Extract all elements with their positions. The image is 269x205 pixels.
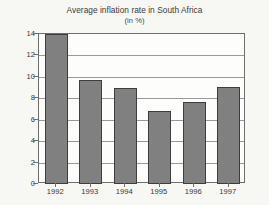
- chart-title: Average inflation rate in South Africa: [0, 5, 269, 15]
- y-tick-label: 10: [9, 71, 35, 80]
- y-tick-label: 8: [9, 93, 35, 102]
- bar-1993: [79, 80, 102, 184]
- chart-subtitle: (in %): [0, 16, 269, 25]
- y-tick-mark: [33, 162, 38, 163]
- gridline: [39, 98, 244, 99]
- y-tick-label: 6: [9, 114, 35, 123]
- y-tick-mark: [33, 140, 38, 141]
- y-tick-mark: [33, 76, 38, 77]
- bar-1992: [45, 34, 68, 184]
- y-tick-mark: [33, 183, 38, 184]
- gridline: [39, 55, 244, 56]
- y-tick-mark: [33, 119, 38, 120]
- gridline: [39, 163, 244, 164]
- plot-area: [38, 33, 245, 183]
- x-tick-label: 1997: [208, 187, 248, 196]
- y-tick-label: 4: [9, 136, 35, 145]
- gridline: [39, 141, 244, 142]
- x-tick-mark: [55, 183, 56, 187]
- y-tick-label: 14: [9, 29, 35, 38]
- x-tick-mark: [124, 183, 125, 187]
- bar-chart: Average inflation rate in South Africa (…: [0, 0, 269, 205]
- x-tick-mark: [90, 183, 91, 187]
- y-tick-label: 2: [9, 157, 35, 166]
- gridline: [39, 77, 244, 78]
- y-tick-label: 0: [9, 179, 35, 188]
- y-tick-mark: [33, 54, 38, 55]
- bar-1997: [217, 87, 240, 185]
- x-tick-mark: [228, 183, 229, 187]
- x-tick-mark: [159, 183, 160, 187]
- bar-1996: [183, 102, 206, 185]
- y-tick-label: 12: [9, 50, 35, 59]
- y-tick-mark: [33, 33, 38, 34]
- x-tick-mark: [193, 183, 194, 187]
- bar-1994: [114, 88, 137, 184]
- bar-1995: [148, 111, 171, 184]
- y-tick-mark: [33, 97, 38, 98]
- gridline: [39, 120, 244, 121]
